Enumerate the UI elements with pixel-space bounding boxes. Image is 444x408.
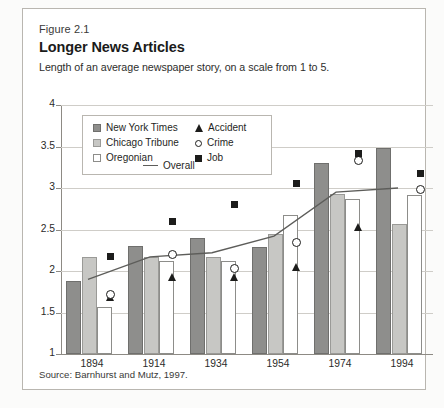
legend-item-chicago: Chicago Tribune [93, 137, 179, 148]
y-tick-label: 4 [33, 98, 55, 109]
y-tick-label: 1.5 [33, 306, 55, 317]
legend-item-nyt: New York Times [93, 122, 178, 133]
legend-item-overall: Overall [143, 160, 195, 171]
y-tick-label: 1 [33, 347, 55, 358]
legend-item-accident: Accident [195, 122, 246, 133]
x-tick-label-1894: 1894 [63, 358, 121, 369]
marker-crime-1954 [292, 238, 301, 247]
legend-label-nyt: New York Times [106, 122, 178, 133]
swatch-chicago-icon [93, 139, 101, 147]
legend-label-job: Job [207, 152, 223, 163]
marker-job-1954 [293, 180, 300, 187]
marker-accident-1914 [168, 273, 176, 281]
y-tick-label: 3.5 [33, 140, 55, 151]
y-tick [56, 354, 61, 355]
marker-job-1914 [169, 218, 176, 225]
x-axis [61, 354, 433, 355]
marker-crime-1914 [168, 250, 177, 259]
y-tick-label: 3 [33, 181, 55, 192]
figure-source: Source: Barnhurst and Mutz, 1997. [39, 369, 188, 380]
x-tick-label-1954: 1954 [249, 358, 307, 369]
legend-label-accident: Accident [208, 122, 246, 133]
figure-page: Figure 2.1 Longer News Articles Length o… [0, 0, 444, 408]
legend-label-chicago: Chicago Tribune [106, 137, 179, 148]
x-tick-label-1974: 1974 [311, 358, 369, 369]
marker-accident-1954 [292, 263, 300, 271]
line-marker-icon [143, 165, 158, 166]
circle-marker-icon [195, 140, 202, 147]
triangle-marker-icon [195, 124, 203, 132]
marker-job-1894 [107, 253, 114, 260]
chart-plot-area: 11.522.533.54 189419141934195419741994 N… [61, 105, 433, 354]
swatch-oregonian-icon [93, 154, 101, 162]
figure-card: Figure 2.1 Longer News Articles Length o… [22, 8, 426, 390]
marker-job-1994 [417, 170, 424, 177]
y-tick-label: 2.5 [33, 223, 55, 234]
swatch-nyt-icon [93, 124, 101, 132]
y-tick-label: 2 [33, 264, 55, 275]
marker-crime-1894 [106, 290, 115, 299]
square-marker-icon [195, 155, 202, 162]
marker-job-1974 [355, 150, 362, 157]
x-tick-label-1934: 1934 [187, 358, 245, 369]
legend-item-crime: Crime [195, 137, 234, 148]
chart-legend: New York Times Chicago Tribune Oregonian… [82, 115, 272, 175]
legend-item-job: Job [195, 152, 223, 163]
marker-accident-1934 [230, 273, 238, 281]
figure-title: Longer News Articles [39, 39, 185, 55]
figure-number: Figure 2.1 [39, 23, 90, 35]
legend-label-overall: Overall [163, 160, 195, 171]
figure-subtitle: Length of an average newspaper story, on… [39, 61, 329, 73]
marker-accident-1974 [354, 223, 362, 231]
legend-label-crime: Crime [207, 137, 234, 148]
marker-job-1934 [231, 201, 238, 208]
x-tick-label-1994: 1994 [373, 358, 431, 369]
x-tick-label-1914: 1914 [125, 358, 183, 369]
